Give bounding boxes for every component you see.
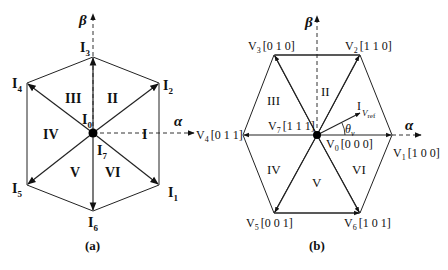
sector-VI-a: VI [105, 165, 121, 180]
sector-II-a: II [107, 91, 118, 106]
label-Vref: IVref [357, 99, 376, 120]
label-I7: I7 [97, 143, 107, 161]
label-V5: V5[0 0 1] [246, 216, 293, 232]
label-V3: V3[0 1 0] [248, 39, 295, 55]
beta-label-b: β [304, 14, 313, 30]
label-I4: I4 [12, 76, 22, 94]
vector-I2 [93, 84, 158, 133]
alpha-label-b: α [405, 117, 414, 133]
figure-a: β α I3 I2 I4 I5 I1 I6 I0 I7 I II III IV … [12, 12, 194, 253]
vector-I5 [28, 133, 93, 184]
space-vector-diagram: β α I3 I2 I4 I5 I1 I6 I0 I7 I II III IV … [0, 0, 448, 270]
label-I0: I0 [82, 112, 92, 130]
label-V2: V2[1 1 0] [345, 39, 392, 55]
label-theta: θv [345, 122, 355, 138]
sector-V-a: V [70, 165, 80, 180]
label-I3: I3 [80, 40, 90, 58]
beta-label-a: β [78, 12, 87, 28]
label-V7: V7[1 1 1] [268, 119, 315, 135]
sector-VI-b: VI [352, 162, 366, 177]
vector-V5 [275, 135, 317, 212]
sector-V-b: V [312, 175, 322, 190]
sector-IV-a: IV [43, 127, 59, 142]
sector-III-b: III [267, 93, 280, 108]
alpha-label-a: α [174, 113, 183, 129]
label-V4: V4[0 1 1] [196, 128, 243, 144]
caption-a: (a) [85, 238, 100, 253]
caption-b: (b) [309, 238, 325, 253]
label-V1: V1[1 0 0] [393, 146, 440, 162]
label-V6: V6[1 0 1] [344, 216, 391, 232]
sector-I-a: I [142, 127, 147, 142]
sector-IV-b: IV [267, 162, 281, 177]
label-I2: I2 [163, 78, 173, 96]
label-I5: I5 [12, 181, 22, 199]
label-I1: I1 [168, 185, 178, 203]
figure-b: β α V3[0 1 0] V2[1 1 0] V4[0 1 1] V1[1 0… [196, 14, 440, 253]
sector-II-b: II [321, 84, 330, 99]
label-I6: I6 [88, 215, 98, 233]
label-V0: V0[0 0 0] [326, 137, 373, 153]
sector-III-a: III [65, 91, 81, 106]
